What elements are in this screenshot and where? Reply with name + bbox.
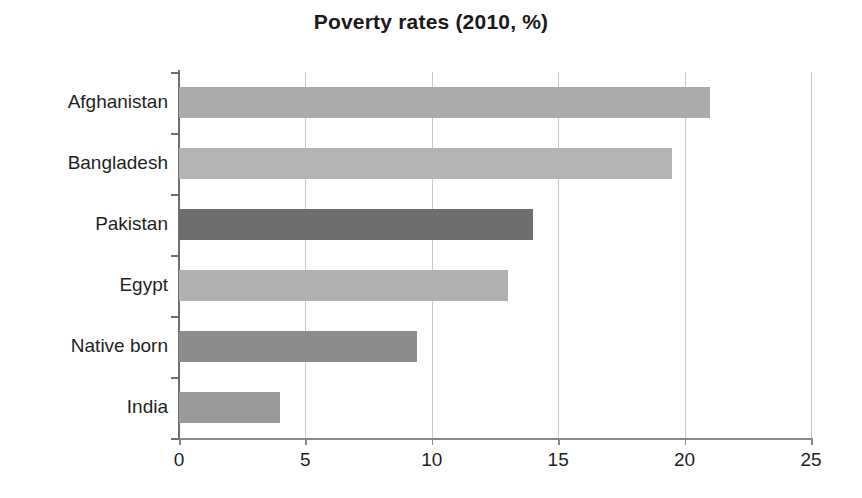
x-axis-line [179, 438, 812, 440]
bar-egypt[interactable] [179, 270, 508, 301]
bar-pakistan[interactable] [179, 209, 533, 240]
bar-row [179, 316, 811, 377]
y-tick-2 [171, 255, 179, 257]
x-tick-5 [305, 438, 307, 445]
bar-row [179, 133, 811, 194]
y-tick-1 [171, 194, 179, 196]
x-tick-25 [811, 438, 813, 445]
x-tick-label-20: 20 [655, 449, 715, 471]
bar-row [179, 194, 811, 255]
bar-bangladesh[interactable] [179, 148, 672, 179]
category-label-egypt: Egypt [0, 274, 168, 296]
y-tick-4 [171, 377, 179, 379]
y-tick-top [171, 72, 179, 74]
x-tick-10 [432, 438, 434, 445]
category-label-afghanistan: Afghanistan [0, 91, 168, 113]
x-tick-0 [179, 438, 181, 445]
chart-title: Poverty rates (2010, %) [0, 10, 862, 34]
gridline-25 [811, 72, 812, 438]
bar-native-born[interactable] [179, 331, 417, 362]
x-tick-label-5: 5 [275, 449, 335, 471]
y-tick-0 [171, 133, 179, 135]
bar-india[interactable] [179, 392, 280, 423]
y-tick-5 [171, 438, 179, 440]
x-tick-label-25: 25 [781, 449, 841, 471]
x-tick-15 [558, 438, 560, 445]
poverty-rates-bar-chart: Poverty rates (2010, %) AfghanistanBangl… [0, 0, 862, 498]
bar-afghanistan[interactable] [179, 87, 710, 118]
bar-row [179, 255, 811, 316]
category-label-native-born: Native born [0, 335, 168, 357]
x-tick-label-15: 15 [528, 449, 588, 471]
category-label-pakistan: Pakistan [0, 213, 168, 235]
category-label-india: India [0, 396, 168, 418]
x-tick-20 [685, 438, 687, 445]
y-tick-3 [171, 316, 179, 318]
plot-area [179, 72, 811, 438]
bar-row [179, 72, 811, 133]
x-tick-label-0: 0 [149, 449, 209, 471]
category-label-bangladesh: Bangladesh [0, 152, 168, 174]
x-tick-label-10: 10 [402, 449, 462, 471]
bar-row [179, 377, 811, 438]
